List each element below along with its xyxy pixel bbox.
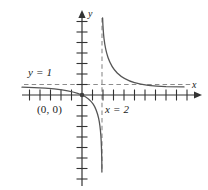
- vertical-asymptote-label: x = 2: [105, 104, 129, 115]
- y-axis-label: y: [88, 9, 92, 19]
- graph-canvas: [0, 0, 208, 190]
- curve-right-branch: [103, 18, 184, 87]
- function-graph-figure: y = 1 (0, 0) x = 2 y x: [0, 0, 208, 190]
- curve-left-branch: [22, 87, 102, 172]
- x-axis-label: x: [192, 80, 196, 90]
- horizontal-asymptote-label: y = 1: [28, 67, 52, 78]
- y-axis: [78, 10, 85, 186]
- x-axis: [22, 91, 202, 98]
- origin-point-marker: [80, 93, 85, 98]
- origin-point-label: (0, 0): [37, 104, 62, 115]
